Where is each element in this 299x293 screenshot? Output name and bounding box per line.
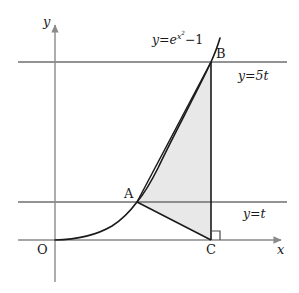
level-line-lower-label: y=t (243, 208, 266, 221)
curve-equation-head: y=e (152, 32, 177, 47)
curve-equation-label: y=ex2−1 (152, 31, 203, 46)
point-label-A: A (124, 187, 133, 200)
geometry-figure: y x O y=ex2−1 y=5t y=t A B C (0, 0, 299, 293)
point-label-B: B (216, 47, 226, 60)
y-axis-label: y (43, 15, 50, 28)
origin-label: O (37, 243, 48, 256)
curve-equation-tail: −1 (185, 32, 203, 47)
level-line-upper-label: y=5t (238, 70, 269, 83)
shaded-region (137, 62, 211, 240)
point-label-C: C (206, 243, 216, 256)
right-angle-marker (211, 231, 220, 240)
x-axis-label: x (277, 243, 284, 256)
